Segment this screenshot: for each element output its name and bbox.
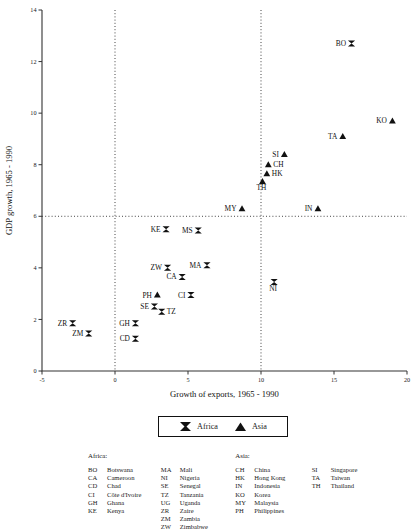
point-label-CI: CI bbox=[178, 291, 186, 300]
key-column-heading: Africa: bbox=[88, 452, 161, 460]
key-country-name: Zambia bbox=[180, 515, 236, 523]
key-country-name: Cameroon bbox=[107, 474, 161, 482]
data-point-SE bbox=[151, 304, 158, 310]
y-tick-label: 0 bbox=[33, 367, 36, 374]
point-label-IN: IN bbox=[305, 204, 313, 213]
legend-entry-asia: Asia bbox=[234, 421, 267, 432]
key-country-name: Mali bbox=[180, 466, 236, 474]
key-code: CD bbox=[88, 482, 107, 490]
reference-lines-group bbox=[42, 10, 407, 371]
point-label-PH: PH bbox=[142, 291, 152, 300]
key-code: MA bbox=[161, 466, 180, 474]
data-point-KO bbox=[389, 117, 396, 123]
key-entry-CI: CICôte d'Ivoire bbox=[88, 491, 161, 499]
point-label-BO: BO bbox=[336, 39, 347, 48]
key-country-name: Botswana bbox=[107, 466, 161, 474]
key-code: SE bbox=[161, 482, 180, 490]
point-label-ZR: ZR bbox=[58, 319, 68, 328]
key-code: CA bbox=[88, 474, 107, 482]
data-point-MS bbox=[195, 227, 202, 233]
point-label-SI: SI bbox=[272, 150, 279, 159]
point-label-CD: CD bbox=[120, 334, 131, 343]
key-country-name: Ghana bbox=[107, 499, 161, 507]
key-entry-IN: INIndonesia bbox=[235, 482, 311, 490]
data-point-SI bbox=[281, 151, 288, 157]
key-code: TZ bbox=[161, 491, 180, 499]
key-country-name: Singapore bbox=[331, 466, 388, 474]
data-point-PH bbox=[154, 292, 161, 298]
key-code: TH bbox=[312, 482, 331, 490]
key-country-name: Philippines bbox=[254, 507, 311, 515]
x-tick-label: 5 bbox=[186, 376, 189, 383]
data-point-ZW bbox=[164, 265, 171, 271]
point-label-ZW: ZW bbox=[151, 263, 163, 272]
key-entry-ZR: ZRZaire bbox=[161, 507, 236, 515]
y-tick-label: 12 bbox=[30, 58, 36, 65]
key-code: UG bbox=[161, 499, 180, 507]
point-label-TH: TH bbox=[257, 183, 268, 192]
triangle-marker-icon bbox=[234, 421, 247, 432]
key-column-3: Asia:CHChinaHKHong KongINIndonesiaKOKore… bbox=[235, 452, 311, 518]
key-entry-NI: NINigeria bbox=[161, 474, 236, 482]
key-code: ZR bbox=[161, 507, 180, 515]
key-country-name: Taiwan bbox=[331, 474, 388, 482]
key-code: KO bbox=[235, 491, 254, 499]
key-entry-BO: BOBotswana bbox=[88, 466, 161, 474]
data-point-CD bbox=[132, 336, 139, 342]
key-country-name: Chad bbox=[107, 482, 161, 490]
key-country-name: Korea bbox=[254, 491, 311, 499]
key-country-name: Malaysia bbox=[254, 499, 311, 507]
axis-titles-group: Growth of exports, 1965 - 1990GDP growth… bbox=[4, 146, 279, 399]
key-column-4: .SISingaporeTATaiwanTHThailand bbox=[312, 452, 388, 518]
key-entry-SE: SESenegal bbox=[161, 482, 236, 490]
x-tick-label: 20 bbox=[404, 376, 410, 383]
point-label-ZM: ZM bbox=[72, 329, 84, 338]
key-code: BO bbox=[88, 466, 107, 474]
key-country-name: Côte d'Ivoire bbox=[107, 491, 161, 499]
y-tick-label: 6 bbox=[33, 212, 36, 219]
y-axis-title: GDP growth, 1965 - 1990 bbox=[4, 146, 14, 235]
key-entry-MA: MAMali bbox=[161, 466, 236, 474]
key-code: ZM bbox=[161, 515, 180, 523]
key-entry-TH: THThailand bbox=[312, 482, 388, 490]
data-point-CA bbox=[179, 274, 186, 280]
x-tick-label: 10 bbox=[258, 376, 264, 383]
y-tick-label: 10 bbox=[30, 109, 36, 116]
point-label-MA: MA bbox=[190, 261, 203, 270]
data-point-BO bbox=[348, 41, 355, 47]
legend: Africa Asia bbox=[158, 416, 288, 437]
key-entry-KO: KOKorea bbox=[235, 491, 311, 499]
x-tick-label: 15 bbox=[331, 376, 337, 383]
data-point-ZM bbox=[85, 331, 92, 337]
key-entry-TZ: TZTanzania bbox=[161, 491, 236, 499]
data-point-CH bbox=[265, 161, 272, 167]
point-label-CA: CA bbox=[166, 272, 177, 281]
key-country-name: Zaire bbox=[180, 507, 236, 515]
key-entry-TA: TATaiwan bbox=[312, 474, 388, 482]
key-entry-HK: HKHong Kong bbox=[235, 474, 311, 482]
key-code: GH bbox=[88, 499, 107, 507]
data-point-MA bbox=[203, 262, 210, 268]
data-point-HK bbox=[263, 170, 270, 176]
point-label-MY: MY bbox=[225, 204, 238, 213]
key-code: HK bbox=[235, 474, 254, 482]
key-code: ZW bbox=[161, 523, 180, 531]
point-label-TZ: TZ bbox=[167, 307, 177, 316]
key-code: PH bbox=[235, 507, 254, 515]
key-country-name: Uganda bbox=[180, 499, 236, 507]
point-label-TA: TA bbox=[328, 132, 338, 141]
legend-label-africa: Africa bbox=[197, 422, 218, 431]
key-entry-CD: CDChad bbox=[88, 482, 161, 490]
x-tick-label: -5 bbox=[39, 376, 44, 383]
y-tick-label: 4 bbox=[33, 264, 36, 271]
data-point-TZ bbox=[158, 309, 165, 315]
key-code: KE bbox=[88, 507, 107, 515]
point-label-GH: GH bbox=[119, 319, 130, 328]
key-entry-UG: UGUganda bbox=[161, 499, 236, 507]
key-country-name: Tanzania bbox=[180, 491, 236, 499]
data-point-ZR bbox=[69, 320, 76, 326]
key-country-name: Thailand bbox=[331, 482, 388, 490]
y-tick-label: 14 bbox=[30, 6, 36, 13]
point-label-HK: HK bbox=[272, 169, 283, 178]
